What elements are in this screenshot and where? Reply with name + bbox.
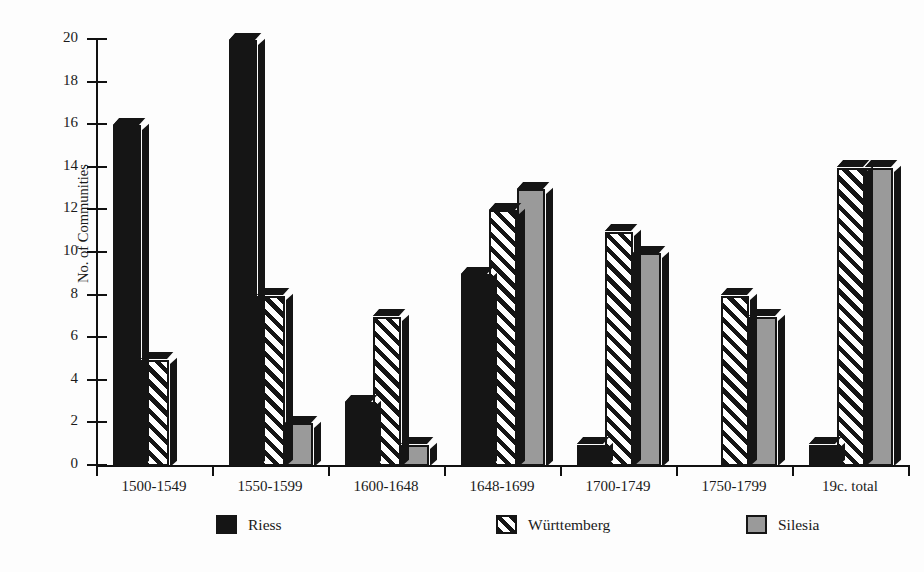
bar-group [113,40,217,466]
y-axis-title: No. of Communities [75,109,92,339]
plot-area: No. of Communities 02468101214161820 [96,40,908,466]
x-tick [212,465,214,476]
y-tick: 4 [87,379,107,381]
legend-swatch-icon [216,515,237,534]
y-tick: 20 [87,38,107,40]
bar-riess-15501599 [229,40,257,466]
x-tick [792,465,794,476]
y-tick: 16 [87,123,107,125]
y-tick-label: 12 [63,197,78,217]
x-tick [328,465,330,476]
legend-label: Silesia [778,516,819,534]
legend-swatch-icon [746,515,767,534]
y-tick: 18 [87,81,107,83]
y-tick: 6 [87,336,107,338]
y-tick-label: 16 [63,112,78,132]
bar-riess-17001749 [577,445,605,466]
x-axis-label: 1500-1549 [122,478,187,495]
y-tick-label: 6 [71,325,79,345]
y-tick: 12 [87,208,107,210]
x-tick [676,465,678,476]
chart-legend: RiessWürttembergSilesia [96,515,908,545]
x-tick [96,465,98,476]
bar-group [809,40,913,466]
x-axis-label: 1600-1648 [354,478,419,495]
x-axis-label: 19c. total [822,478,878,495]
y-tick-label: 14 [63,155,78,175]
y-tick: 8 [87,294,107,296]
y-tick: 10 [87,251,107,253]
bar-wrttemberg-19ctotal [837,168,865,466]
bar-group [229,40,333,466]
x-axis-label: 1648-1699 [470,478,535,495]
y-tick-label: 4 [71,368,79,388]
legend-item-silesia[interactable]: Silesia [746,515,819,534]
bar-wrttemberg-17501799 [721,296,749,466]
y-tick: 14 [87,166,107,168]
x-tick [444,465,446,476]
legend-swatch-icon [496,515,517,534]
chart-page: No. of Communities 02468101214161820 150… [0,0,924,572]
y-tick-label: 18 [63,70,78,90]
bar-wrttemberg-17001749 [605,232,633,466]
y-tick: 2 [87,421,107,423]
legend-label: Württemberg [528,516,610,534]
bar-riess-19ctotal [809,445,837,466]
y-tick-label: 10 [63,240,78,260]
x-axis-label: 1550-1599 [238,478,303,495]
bar-riess-16001648 [345,402,373,466]
bar-group [461,40,565,466]
x-tick [560,465,562,476]
y-tick-label: 8 [71,283,79,303]
y-tick-label: 0 [71,453,79,473]
y-tick-label: 20 [63,27,78,47]
y-tick-label: 2 [71,410,79,430]
bar-group [577,40,681,466]
x-tick [908,465,910,476]
legend-item-wrttemberg[interactable]: Württemberg [496,515,610,534]
x-axis-label: 1700-1749 [586,478,651,495]
x-axis-label: 1750-1799 [702,478,767,495]
bar-group [345,40,449,466]
bar-riess-15001549 [113,125,141,466]
legend-label: Riess [248,516,282,534]
legend-item-riess[interactable]: Riess [216,515,282,534]
bar-group [693,40,797,466]
bar-riess-16481699 [461,274,489,466]
